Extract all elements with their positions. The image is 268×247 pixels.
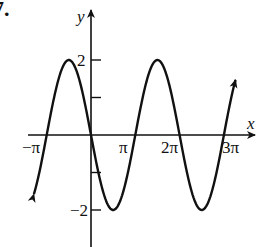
- y-axis-label: y: [75, 7, 85, 26]
- sine-graph-figure: 7. x y −ππ2π3π 2−2: [0, 0, 268, 247]
- y-tick-label: 2: [77, 51, 86, 70]
- problem-number: 7.: [0, 0, 10, 21]
- x-tick-label: 3π: [222, 138, 240, 157]
- y-tick-label: −2: [70, 201, 88, 220]
- x-tick-label: 2π: [161, 138, 179, 157]
- plot-canvas: 7. x y −ππ2π3π 2−2: [0, 0, 268, 247]
- x-tick-label: π: [119, 138, 128, 157]
- x-axis-label: x: [246, 114, 255, 133]
- x-tick-label: −π: [22, 138, 41, 157]
